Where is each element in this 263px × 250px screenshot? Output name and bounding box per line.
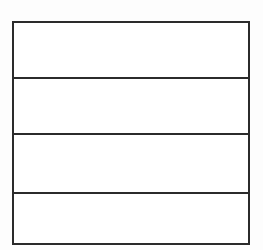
blank-table	[12, 21, 250, 245]
table-row	[14, 77, 248, 133]
table-row	[14, 133, 248, 192]
table-row	[14, 23, 248, 77]
table-row	[14, 192, 248, 243]
